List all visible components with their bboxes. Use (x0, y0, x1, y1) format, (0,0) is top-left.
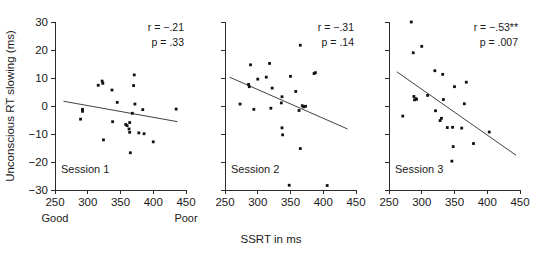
panel-2: 250300350400450r = −.31p = .14Session 2 (215, 21, 365, 208)
data-point (269, 107, 272, 110)
data-point (289, 75, 292, 78)
data-point (268, 62, 271, 65)
x-tick-label: 300 (412, 196, 431, 208)
data-point (128, 131, 131, 134)
data-point (111, 120, 114, 123)
data-point (415, 98, 418, 101)
data-point (288, 184, 291, 187)
data-point (326, 184, 329, 187)
x-tick-label: 450 (176, 196, 195, 208)
pvalue-annotation: p = .14 (322, 36, 355, 48)
x-tick-label: 400 (314, 196, 333, 208)
data-point (434, 109, 437, 112)
data-point (299, 147, 302, 150)
x-anchor-good-label: Good (42, 212, 69, 224)
data-point (128, 128, 131, 131)
data-point (426, 94, 429, 97)
data-point (433, 69, 436, 72)
data-point (256, 78, 259, 81)
y-tick-label: 30 (35, 16, 48, 28)
data-point (128, 121, 131, 124)
data-point (488, 131, 491, 134)
y-tick-label: −10 (28, 128, 48, 140)
x-tick-label: 350 (111, 196, 130, 208)
panel-3: 250300350400450r = −.53**p = .007Session… (379, 21, 529, 208)
data-point (81, 110, 84, 113)
data-point (129, 151, 132, 154)
x-tick-label: 350 (281, 196, 300, 208)
data-point (314, 71, 317, 74)
data-point (281, 126, 284, 129)
correlation-annotation: r = −.53** (474, 21, 518, 33)
panel-title: Session 2 (231, 163, 279, 175)
data-point (248, 85, 251, 88)
data-point (472, 142, 475, 145)
data-point (441, 73, 444, 76)
data-point (442, 98, 445, 101)
x-tick-label: 450 (346, 196, 365, 208)
data-point (280, 102, 283, 105)
correlation-annotation: r = −.31 (318, 21, 354, 33)
data-point (116, 101, 119, 104)
data-point (401, 115, 404, 118)
data-point (102, 138, 105, 141)
y-tick-label: 0 (42, 100, 48, 112)
trend-line (397, 72, 516, 155)
x-tick-label: 300 (78, 196, 97, 208)
panel-title: Session 1 (61, 163, 109, 175)
scatter-figure: −30−20−100102030250300350400450r = −.21p… (0, 0, 542, 254)
data-point (294, 90, 297, 93)
data-point (420, 45, 423, 48)
data-point (453, 85, 456, 88)
x-tick-label: 400 (478, 196, 497, 208)
data-point (175, 108, 178, 111)
data-point (143, 132, 146, 135)
data-point (281, 95, 284, 98)
panel-1: −30−20−100102030250300350400450r = −.21p… (28, 16, 195, 208)
data-point (281, 133, 284, 136)
data-point (440, 117, 443, 120)
data-point (132, 84, 135, 87)
data-point (111, 89, 114, 92)
data-point (97, 84, 100, 87)
data-point (304, 105, 307, 108)
data-point (460, 127, 463, 130)
x-anchor-poor-label: Poor (174, 212, 198, 224)
x-tick-label: 400 (144, 196, 163, 208)
x-tick-label: 250 (45, 196, 64, 208)
data-point (412, 51, 415, 54)
y-axis-title: Unconscious RT slowing (ms) (4, 30, 16, 182)
data-point (134, 103, 137, 106)
data-point (249, 63, 252, 66)
data-point (126, 124, 129, 127)
x-axis-title: SSRT in ms (241, 233, 302, 245)
data-point (450, 160, 453, 163)
data-point (451, 126, 454, 129)
data-point (133, 74, 136, 77)
x-tick-label: 450 (510, 196, 529, 208)
y-tick-label: −30 (28, 184, 48, 196)
data-point (265, 76, 268, 79)
data-point (137, 131, 140, 134)
x-tick-label: 250 (215, 196, 234, 208)
data-point (239, 103, 242, 106)
data-point (299, 44, 302, 47)
data-point (271, 87, 274, 90)
figure-container: −30−20−100102030250300350400450r = −.21p… (0, 0, 542, 254)
y-tick-label: −20 (28, 156, 48, 168)
x-tick-label: 350 (445, 196, 464, 208)
data-point (298, 109, 301, 112)
x-tick-label: 250 (379, 196, 398, 208)
data-point (252, 108, 255, 111)
x-tick-label: 300 (248, 196, 267, 208)
y-tick-label: 10 (35, 72, 48, 84)
correlation-annotation: r = −.21 (148, 21, 184, 33)
data-point (465, 81, 468, 84)
panel-title: Session 3 (395, 163, 443, 175)
data-point (452, 145, 455, 148)
data-point (131, 112, 134, 115)
data-point (101, 82, 104, 85)
data-point (446, 126, 449, 129)
data-point (410, 21, 413, 24)
data-point (79, 118, 82, 121)
